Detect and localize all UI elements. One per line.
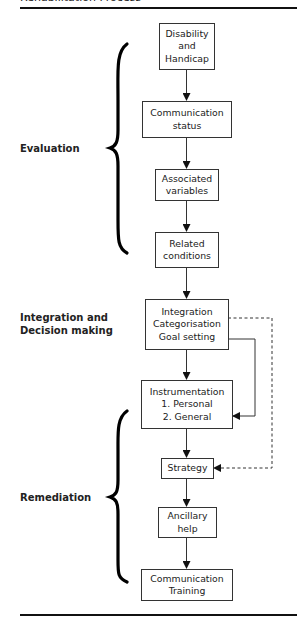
box-associated-variables: Associated variables bbox=[155, 169, 219, 201]
box-integration: Integration Categorisation Goal setting bbox=[145, 299, 229, 350]
box-communication-training: Communication Training bbox=[141, 569, 233, 601]
box-strategy: Strategy bbox=[161, 458, 214, 479]
box-disability-handicap: Disability and Handicap bbox=[159, 23, 215, 70]
box-related-conditions: Related conditions bbox=[155, 232, 219, 268]
brace-remediation bbox=[110, 411, 127, 582]
brace-evaluation bbox=[110, 44, 127, 253]
box-ancillary-help: Ancillary help bbox=[158, 507, 217, 538]
box-instrumentation: Instrumentation 1. Personal 2. General bbox=[141, 380, 233, 429]
box-communication-status: Communication status bbox=[142, 101, 232, 138]
